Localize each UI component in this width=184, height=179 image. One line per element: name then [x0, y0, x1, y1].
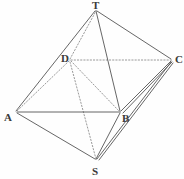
edge-C-S-alt — [99, 63, 173, 160]
solid-edges — [16, 11, 173, 160]
geometry-svg — [0, 0, 184, 179]
vertex-label-C: C — [175, 54, 183, 65]
vertex-label-A: A — [4, 112, 12, 123]
edge-D-S — [70, 62, 96, 159]
edge-D-A — [17, 61, 69, 111]
edge-T-A — [16, 11, 95, 111]
edge-T-B — [96, 11, 120, 111]
edge-C-S — [97, 62, 171, 159]
vertex-label-T: T — [92, 0, 99, 11]
geometry-figure: T D C A B S — [0, 0, 184, 179]
vertex-label-D: D — [61, 53, 69, 64]
edge-T-C — [97, 11, 171, 59]
edge-A-S — [17, 113, 95, 159]
edge-C-B-alt — [123, 62, 172, 113]
vertex-label-B: B — [122, 113, 129, 124]
vertex-label-S: S — [92, 166, 98, 177]
edge-D-B — [71, 61, 119, 111]
edge-B-S — [96, 113, 120, 159]
edge-D-T — [70, 11, 96, 59]
edge-B-C — [121, 61, 171, 111]
dotted-edges — [17, 11, 171, 159]
